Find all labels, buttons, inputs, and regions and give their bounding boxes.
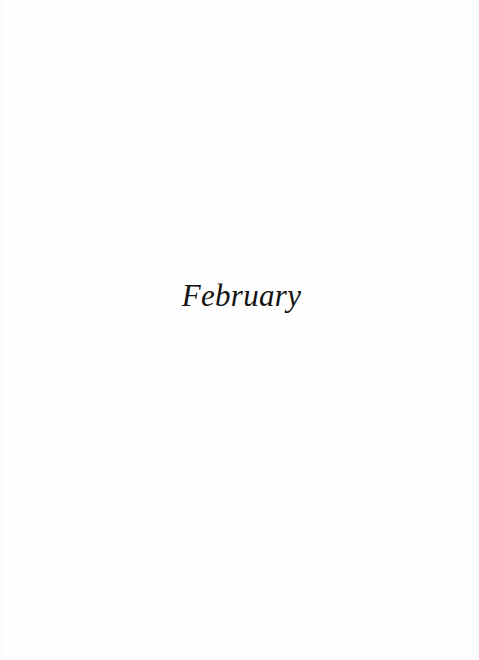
page-title: February: [0, 276, 479, 316]
page-edge-left: [0, 0, 6, 660]
document-page: February: [0, 0, 479, 660]
page-edge-right: [473, 0, 479, 660]
